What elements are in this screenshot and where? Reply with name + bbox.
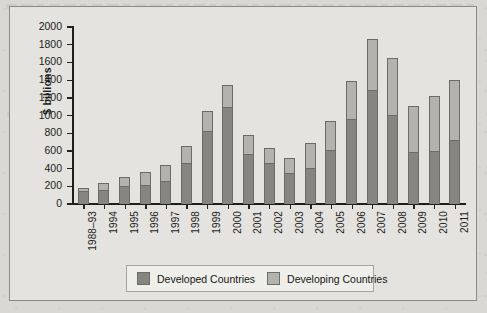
bar-segment-developed <box>367 90 378 204</box>
y-axis-tick-label: 1600 <box>39 55 62 67</box>
bar-segment-developing <box>429 96 440 150</box>
bar-stack <box>140 172 151 204</box>
developed-swatch <box>137 272 150 285</box>
bar-segment-developing <box>160 165 171 181</box>
x-axis-tick-mark <box>310 204 311 209</box>
x-axis-tick-mark <box>166 204 167 209</box>
y-axis-tick-label: 2000 <box>39 20 62 32</box>
legend-entry: Developed Countries <box>137 272 255 285</box>
legend-label: Developing Countries <box>287 273 387 285</box>
x-axis-tick-mark <box>393 204 394 209</box>
x-axis-tick-label: 2005 <box>335 211 346 271</box>
bar-segment-developed <box>449 140 460 204</box>
bar-stack <box>160 165 171 204</box>
x-axis-tick-label: 2007 <box>376 211 387 271</box>
x-axis-tick-mark <box>331 204 332 209</box>
x-axis-tick-label: 1995 <box>129 211 140 271</box>
x-axis-tick-mark <box>372 204 373 209</box>
y-axis-tick-mark <box>67 186 72 187</box>
x-axis-tick-mark <box>290 204 291 209</box>
bar-stack <box>367 39 378 204</box>
bar-stack <box>284 158 295 204</box>
y-axis-tick-mark <box>67 26 72 27</box>
bar-segment-developing <box>284 158 295 173</box>
y-axis-tick-mark <box>67 44 72 45</box>
bar-segment-developed <box>140 185 151 204</box>
x-axis-tick-label: 2011 <box>459 211 470 271</box>
bar-stack <box>98 183 109 204</box>
x-axis-tick-mark <box>352 204 353 209</box>
y-axis-tick-mark <box>67 80 72 81</box>
x-axis-tick-label: 2004 <box>314 211 325 271</box>
y-axis-tick-label: 400 <box>44 162 62 174</box>
bar-segment-developing <box>387 58 398 115</box>
chart-legend: Developed CountriesDeveloping Countries <box>126 265 374 292</box>
bar-segment-developing <box>346 81 357 118</box>
bar-segment-developed <box>305 168 316 204</box>
bar-segment-developed <box>119 186 130 204</box>
y-axis-tick-mark <box>67 115 72 116</box>
bar-stack <box>429 96 440 204</box>
x-axis-tick-label: 2003 <box>294 211 305 271</box>
x-axis-tick-label: 1999 <box>211 211 222 271</box>
y-axis-tick-mark <box>67 203 72 204</box>
x-axis-tick-mark <box>269 204 270 209</box>
bar-stack <box>325 121 336 204</box>
legend-entry: Developing Countries <box>267 272 387 285</box>
bar-segment-developed <box>429 151 440 204</box>
bar-stack <box>449 80 460 204</box>
bar-stack <box>264 148 275 204</box>
x-axis-tick-label: 2000 <box>232 211 243 271</box>
bar-stack <box>408 106 419 204</box>
bar-segment-developed <box>408 152 419 204</box>
x-axis-tick-mark <box>104 204 105 209</box>
y-axis-tick-label: 1400 <box>39 73 62 85</box>
y-axis-tick-label: 1200 <box>39 91 62 103</box>
y-axis-tick-label: 800 <box>44 126 62 138</box>
y-axis-tick-label: 1800 <box>39 38 62 50</box>
bar-segment-developed <box>243 154 254 204</box>
bar-segment-developed <box>202 131 213 204</box>
bar-stack <box>119 177 130 204</box>
scanned-page: $ billions 20001800160014001200100080060… <box>0 0 487 313</box>
plot-area <box>73 27 465 204</box>
bar-segment-developing <box>119 177 130 187</box>
bar-segment-developing <box>408 106 419 152</box>
y-axis-tick-label: 0 <box>56 197 62 209</box>
x-axis-tick-label: 1997 <box>170 211 181 271</box>
bar-segment-developing <box>264 148 275 163</box>
y-axis-tick-label: 1000 <box>39 109 62 121</box>
bar-stack <box>305 143 316 204</box>
x-axis-tick-label: 2008 <box>397 211 408 271</box>
chart-figure: $ billions 20001800160014001200100080060… <box>9 6 477 301</box>
bar-stack <box>387 58 398 204</box>
x-axis-tick-label: 1994 <box>108 211 119 271</box>
bar-segment-developed <box>78 191 89 204</box>
bar-segment-developing <box>222 85 233 107</box>
bar-segment-developing <box>325 121 336 150</box>
x-axis-tick-mark <box>248 204 249 209</box>
bar-segment-developed <box>325 150 336 204</box>
x-axis-tick-label: 2009 <box>417 211 428 271</box>
bar-segment-developed <box>284 173 295 204</box>
bar-stack <box>243 135 254 204</box>
bar-segment-developing <box>449 80 460 141</box>
y-axis-tick-mark <box>67 150 72 151</box>
developing-swatch <box>267 272 280 285</box>
x-axis-tick-mark <box>207 204 208 209</box>
bar-segment-developing <box>140 172 151 184</box>
bar-segment-developed <box>98 190 109 204</box>
x-axis-tick-mark <box>83 204 84 209</box>
bar-segment-developing <box>243 135 254 154</box>
x-axis-tick-label: 1998 <box>190 211 201 271</box>
y-axis-tick-mark <box>67 97 72 98</box>
x-axis-tick-label: 2010 <box>438 211 449 271</box>
bar-stack <box>346 81 357 204</box>
x-axis-tick-label: 2002 <box>273 211 284 271</box>
x-axis-tick-mark <box>145 204 146 209</box>
x-axis-tick-label: 2006 <box>356 211 367 271</box>
bar-stack <box>202 111 213 204</box>
y-axis-tick-label: 200 <box>44 179 62 191</box>
bar-segment-developed <box>387 115 398 204</box>
x-axis-tick-mark <box>434 204 435 209</box>
